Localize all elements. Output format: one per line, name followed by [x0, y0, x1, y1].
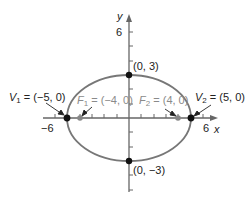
x-tick-label-neg6: −6	[41, 122, 54, 134]
label-f2: F2 = (4, 0)	[139, 94, 188, 108]
point-bottom-vertex	[126, 158, 132, 164]
y-axis-label: y	[116, 10, 124, 22]
point-top-vertex	[126, 72, 132, 78]
label-v2: V2 = (5, 0)	[195, 91, 245, 105]
x-axis-label: x	[213, 123, 220, 135]
y-axis-arrow-icon	[126, 14, 132, 22]
label-top-vertex: (0, 3)	[133, 60, 159, 72]
x-tick-label-6: 6	[203, 122, 209, 134]
point-v2	[188, 115, 195, 122]
label-v1: V1 = (−5, 0)	[9, 91, 65, 105]
label-bottom-vertex: (0, −3)	[133, 164, 165, 176]
y-tick-label-6: 6	[116, 26, 122, 38]
ellipse-diagram: y x 6 −6 6 (0, 3) (0, −3) V1 = (−5, 0) F…	[0, 0, 248, 203]
label-f1: F1 = (−4, 0)	[77, 94, 133, 108]
x-axis-arrow-icon	[210, 115, 218, 121]
point-v1	[64, 115, 71, 122]
